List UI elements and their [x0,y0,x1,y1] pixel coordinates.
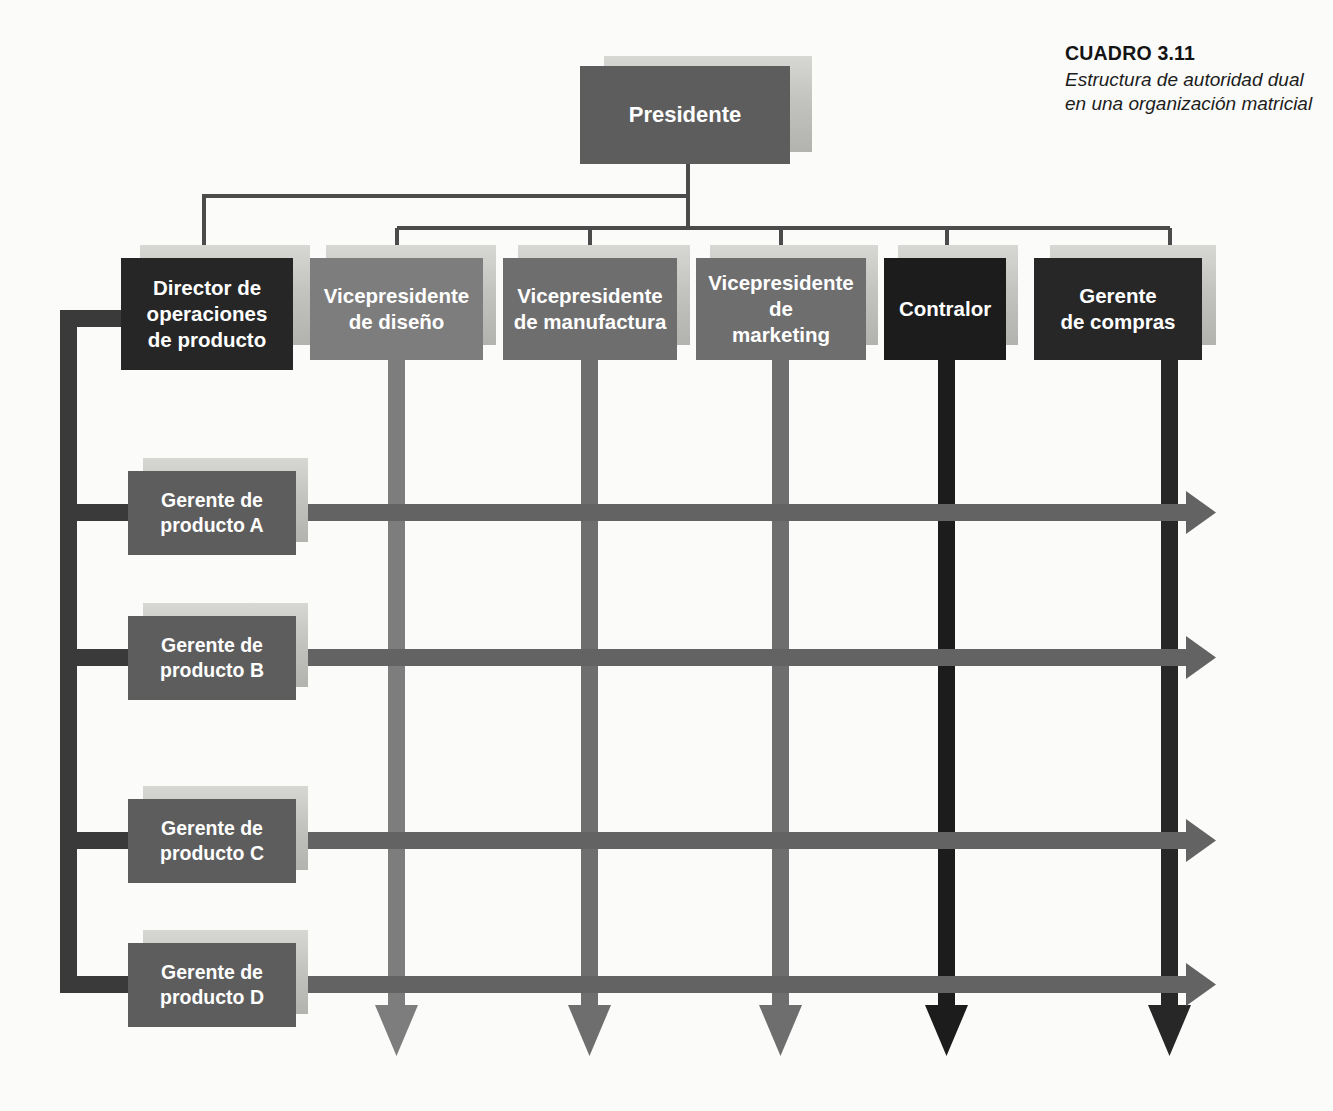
column-arrow-compras [1148,1005,1191,1056]
column-line-diseno [388,360,405,1010]
node-producto-c-label: Gerente de producto C [160,816,264,865]
node-contralor[interactable]: Contralor [884,258,1006,360]
column-line-compras [1161,360,1178,1010]
node-producto-a-label: Gerente de producto A [160,488,263,537]
column-line-marketing [772,360,789,1010]
node-producto-a[interactable]: Gerente de producto A [128,471,296,555]
node-producto-c[interactable]: Gerente de producto C [128,799,296,883]
node-vp-manufactura[interactable]: Vicepresidente de manufactura [503,258,677,360]
node-vp-diseno[interactable]: Vicepresidente de diseño [310,258,483,360]
node-vp-manufactura-label: Vicepresidente de manufactura [514,283,667,335]
node-director-operaciones-label: Director de operaciones de producto [147,275,268,352]
column-line-contralor [938,360,955,1010]
column-arrow-contralor [925,1005,968,1056]
node-gerente-compras-label: Gerente de compras [1060,283,1175,335]
node-producto-d-label: Gerente de producto D [160,960,264,1009]
node-vp-marketing-label: Vicepresidente de marketing [708,270,853,347]
node-contralor-label: Contralor [899,296,991,322]
row-arrow-b [1186,636,1216,679]
figure-canvas: CUADRO 3.11 Estructura de autoridad dual… [0,0,1333,1111]
node-vp-diseno-label: Vicepresidente de diseño [324,283,469,335]
node-producto-b[interactable]: Gerente de producto B [128,616,296,700]
function-columns [375,360,1191,1056]
column-arrow-manufactura [568,1005,611,1056]
node-presidente[interactable]: Presidente [580,66,790,164]
node-gerente-compras[interactable]: Gerente de compras [1034,258,1202,360]
row-arrow-c [1186,819,1216,862]
column-arrow-marketing [759,1005,802,1056]
node-presidente-label: Presidente [629,101,742,129]
product-rows [140,491,1216,1006]
row-arrow-d [1186,963,1216,1006]
node-vp-marketing[interactable]: Vicepresidente de marketing [696,258,866,360]
tree-lines [204,163,1170,258]
row-arrow-a [1186,491,1216,534]
node-producto-b-label: Gerente de producto B [160,633,264,682]
node-producto-d[interactable]: Gerente de producto D [128,943,296,1027]
column-arrow-diseno [375,1005,418,1056]
column-line-manufactura [581,360,598,1010]
node-director-operaciones[interactable]: Director de operaciones de producto [121,258,293,370]
